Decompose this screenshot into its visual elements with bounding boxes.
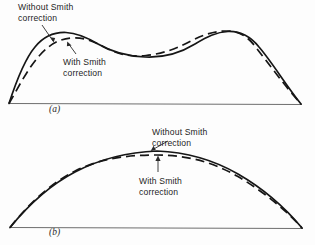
panel-b-arrowhead-with-smith — [155, 155, 160, 161]
panel-a-label: (a) — [49, 104, 60, 114]
panel-b-label: (b) — [49, 227, 60, 237]
panel-b-annotation-with-smith: With Smith correction — [139, 176, 182, 197]
panel-a-arrowhead-without-smith — [50, 37, 55, 42]
panel-b-annotation-without-smith: Without Smith correction — [152, 127, 207, 148]
panel-a-curve-without-smith — [9, 31, 301, 104]
panel-a-annotation-without-smith: Without Smith correction — [18, 2, 73, 23]
panel-a-arrowhead-with-smith — [67, 42, 72, 47]
figure-container: Without Smith correction With Smith corr… — [0, 0, 315, 245]
panel-a-curve-with-smith — [9, 31, 301, 104]
panel-a-annotation-with-smith: With Smith correction — [63, 57, 106, 78]
